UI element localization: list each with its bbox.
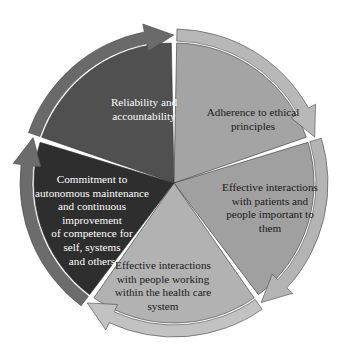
- label-line: autonomous maintenance: [22, 187, 162, 201]
- label-commitment: Commitment toautonomous maintenanceand c…: [22, 173, 162, 268]
- label-line: Effective interactions: [205, 181, 335, 195]
- label-ethics: Adherence to ethicalprinciples: [188, 106, 318, 133]
- label-line: improvement: [22, 214, 162, 228]
- label-line: principles: [188, 120, 318, 134]
- label-line: Adherence to ethical: [188, 106, 318, 120]
- label-line: system: [98, 300, 228, 314]
- label-line: people important to: [205, 208, 335, 222]
- label-line: of competence for: [22, 227, 162, 241]
- label-line: Commitment to: [22, 173, 162, 187]
- label-line: and others: [22, 255, 162, 269]
- label-line: with people working: [98, 273, 228, 287]
- label-patients: Effective interactionswith patients andp…: [205, 181, 335, 235]
- label-line: within the health care: [98, 286, 228, 300]
- label-line: them: [205, 222, 335, 236]
- label-line: and continuous: [22, 200, 162, 214]
- label-line: with patients and: [205, 195, 335, 209]
- label-line: self, systems: [22, 241, 162, 255]
